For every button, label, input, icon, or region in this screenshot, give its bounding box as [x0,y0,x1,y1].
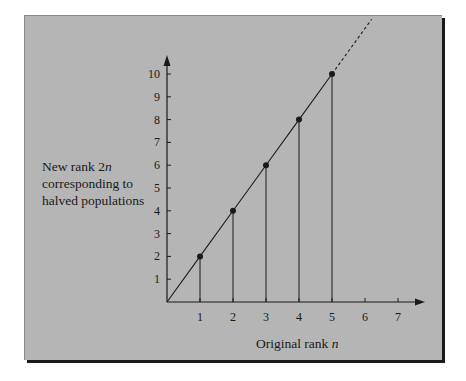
x-axis-label-var: n [332,336,339,351]
y-tick-label: 2 [154,249,160,263]
data-point [296,117,302,123]
y-tick-label: 1 [154,272,160,286]
y-tick-label: 9 [154,90,160,104]
x-tick-label: 4 [296,310,302,324]
x-tick-label: 5 [329,310,335,324]
x-tick-label: 2 [230,310,236,324]
y-tick-label: 7 [154,135,160,149]
x-tick-label: 6 [362,310,368,324]
x-axis-label-text: Original rank [256,336,332,351]
y-axis-label-line-3: halved populations [42,192,162,209]
data-point [197,253,203,259]
y-tick-label: 10 [148,67,160,81]
x-axis-arrow-icon [415,299,425,306]
y-axis-label-var: n [105,159,112,174]
x-tick-label: 1 [197,310,203,324]
y-axis-label: New rank 2n corresponding to halved popu… [42,158,162,209]
y-axis-label-line-1: New rank 2 [42,159,105,174]
y-axis-arrow-icon [164,55,171,66]
y-tick-label: 3 [154,227,160,241]
y-axis-label-line-2: corresponding to [42,175,162,192]
data-point [263,162,269,168]
x-tick-label: 7 [395,310,401,324]
x-tick-label: 3 [263,310,269,324]
x-axis-label: Original rank n [256,336,338,352]
data-point [230,208,236,214]
y-tick-label: 8 [154,113,160,127]
data-line [167,74,332,302]
dashed-extension-line [332,19,372,74]
